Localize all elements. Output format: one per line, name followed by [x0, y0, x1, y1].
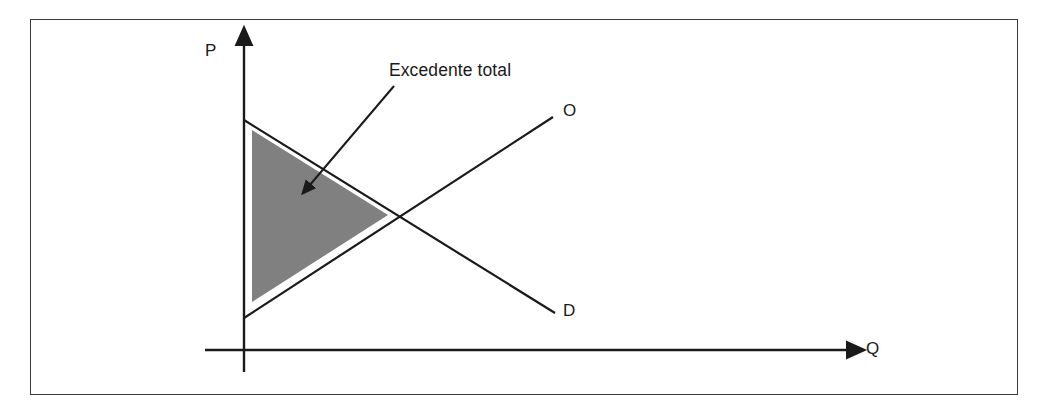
demand-curve-label: D [563, 301, 575, 321]
quantity-axis-label: Q [866, 339, 879, 359]
excedente-total-arrow [309, 86, 394, 186]
supply-curve-label: O [563, 101, 576, 121]
excedente-total-annotation-label: Excedente total [389, 60, 511, 81]
diagram-canvas [0, 0, 1042, 417]
figure-root: P Q O D Excedente total [0, 0, 1042, 417]
price-axis-label: P [205, 41, 216, 61]
total-surplus-triangle [252, 130, 388, 302]
